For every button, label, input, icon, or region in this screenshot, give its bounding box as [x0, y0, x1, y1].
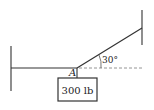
angle-label: 30° [102, 55, 118, 65]
diagram-canvas: A 30° 300 lb [0, 0, 154, 110]
angle-arc [99, 55, 101, 68]
weight-label: 300 lb [62, 85, 94, 96]
point-a-label: A [68, 67, 76, 78]
